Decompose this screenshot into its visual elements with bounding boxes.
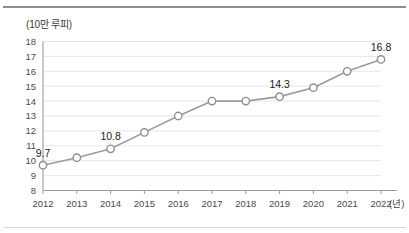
svg-text:18: 18 <box>25 36 36 47</box>
svg-text:14: 14 <box>25 96 36 107</box>
svg-text:2017: 2017 <box>201 198 222 209</box>
svg-text:2013: 2013 <box>66 198 87 209</box>
svg-text:14.3: 14.3 <box>269 78 290 90</box>
svg-text:15: 15 <box>25 81 36 92</box>
svg-text:8: 8 <box>31 185 36 196</box>
svg-text:16.8: 16.8 <box>371 41 392 53</box>
svg-text:9.7: 9.7 <box>36 147 51 159</box>
svg-text:13: 13 <box>25 110 36 121</box>
svg-text:12: 12 <box>25 125 36 136</box>
line-chart-plot: 89101112131415161718 2012201320142015201… <box>0 0 409 233</box>
svg-text:2018: 2018 <box>235 198 256 209</box>
svg-text:10: 10 <box>25 155 36 166</box>
svg-text:2021: 2021 <box>337 198 358 209</box>
svg-text:2014: 2014 <box>100 198 121 209</box>
data-point-markers <box>39 56 384 169</box>
svg-text:2020: 2020 <box>303 198 324 209</box>
svg-text:10.8: 10.8 <box>100 130 121 142</box>
gridlines-group <box>43 42 381 191</box>
y-axis-tick-labels: 89101112131415161718 <box>25 36 36 196</box>
svg-text:2012: 2012 <box>32 198 53 209</box>
x-axis-tick-labels: 2012201320142015201620172018201920202021… <box>32 198 391 209</box>
svg-text:16: 16 <box>25 66 36 77</box>
svg-text:9: 9 <box>31 170 36 181</box>
svg-text:2016: 2016 <box>168 198 189 209</box>
svg-text:2019: 2019 <box>269 198 290 209</box>
svg-text:2015: 2015 <box>134 198 155 209</box>
x-axis-unit-label: (년) <box>389 198 404 209</box>
chart-figure: (10만 루피) 89101112131415161718 2012201320… <box>0 0 409 233</box>
svg-text:11: 11 <box>26 140 36 151</box>
svg-text:17: 17 <box>25 51 36 62</box>
data-series-line <box>43 59 381 165</box>
